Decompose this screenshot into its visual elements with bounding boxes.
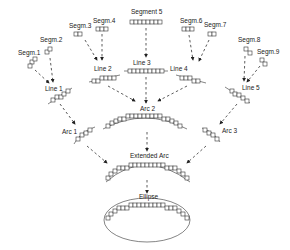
segment5-pixels (130, 20, 162, 24)
label-arc1: Arc 1 (62, 128, 78, 135)
line4-pixels (176, 75, 206, 83)
label-segm8: Segm.8 (238, 36, 261, 44)
label-segm9: Segm.9 (257, 48, 280, 56)
label-segm3: Segm.3 (69, 22, 92, 30)
label-line5: Line 5 (242, 84, 260, 91)
label-segm7: Segm.7 (204, 21, 227, 29)
diagram-canvas: Segm.1 Segm.2 Segm.3 Segm.4 Segment 5 Se… (0, 0, 290, 250)
label-ellipse: Ellipse (139, 193, 159, 201)
label-extended-arc: Extended Arc (130, 152, 169, 159)
label-line2: Line 2 (94, 65, 112, 72)
label-line1: Line 1 (45, 85, 63, 92)
segm8-pixels (244, 47, 252, 55)
label-segm1: Segm.1 (18, 49, 41, 57)
segm9-pixels (260, 58, 267, 66)
segm4-pixels (96, 27, 108, 31)
segm7-pixels (208, 32, 216, 36)
label-arc3: Arc 3 (222, 127, 238, 134)
line3-pixels (124, 69, 168, 73)
segm2-pixels (45, 47, 52, 54)
arc2-pixels (103, 114, 187, 129)
label-line3: Line 3 (133, 59, 151, 66)
extended-arc-pixels (106, 163, 190, 182)
segm6-pixels (182, 27, 194, 31)
label-arc2: Arc 2 (140, 105, 156, 112)
line2-pixels (89, 75, 120, 83)
label-segm2: Segm.2 (40, 36, 63, 44)
label-segm4: Segm.4 (93, 17, 116, 25)
label-segment5: Segment 5 (131, 8, 163, 16)
segm1-pixels (28, 57, 37, 68)
label-segm6: Segm.6 (180, 17, 203, 25)
segm3-pixels (74, 32, 82, 36)
arc3-pixels (202, 128, 220, 142)
ellipse-shape (104, 198, 190, 242)
label-line4: Line 4 (170, 65, 188, 72)
